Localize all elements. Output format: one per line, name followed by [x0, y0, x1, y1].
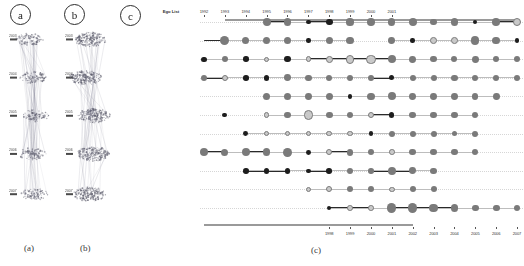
row-6-node-1997[interactable] [306, 131, 312, 137]
row-2-node-1993[interactable] [222, 56, 228, 62]
row-5-node-2004[interactable] [451, 112, 457, 118]
row-0-node-1996[interactable] [284, 18, 291, 25]
row-7-node-1998[interactable] [326, 149, 332, 155]
row-7-node-2005[interactable] [472, 149, 478, 155]
row-3-node-2007[interactable] [514, 75, 520, 81]
row-1-node-2005[interactable] [471, 36, 479, 44]
row-8-node-1996[interactable] [285, 168, 291, 174]
row-10-node-2006[interactable] [493, 205, 500, 212]
row-4-node-1997[interactable] [305, 93, 312, 100]
row-0-node-2003[interactable] [430, 19, 437, 26]
row-6-node-1999[interactable] [347, 131, 353, 137]
row-6-node-1994[interactable] [243, 131, 248, 136]
row-0-node-1999[interactable] [346, 18, 353, 25]
row-8-node-1997[interactable] [306, 169, 310, 173]
row-7-node-1999[interactable] [347, 149, 354, 156]
row-7-node-1994[interactable] [242, 148, 250, 156]
row-4-node-1995[interactable] [263, 93, 270, 100]
row-3-node-1999[interactable] [347, 75, 353, 81]
row-4-node-2001[interactable] [388, 92, 396, 100]
row-10-node-2007[interactable] [514, 205, 521, 212]
row-6-node-2004[interactable] [452, 131, 458, 137]
row-3-node-2001[interactable] [389, 75, 394, 80]
row-0-node-2000[interactable] [367, 18, 375, 26]
row-2-node-2007[interactable] [514, 56, 520, 62]
row-7-node-1995[interactable] [263, 148, 271, 156]
row-8-node-2002[interactable] [409, 167, 416, 174]
row-3-node-1992[interactable] [201, 75, 207, 81]
row-7-node-2004[interactable] [451, 149, 457, 155]
row-4-node-2004[interactable] [451, 93, 458, 100]
row-2-node-2005[interactable] [472, 56, 479, 63]
row-1-node-2004[interactable] [451, 37, 458, 44]
row-8-node-2000[interactable] [368, 168, 374, 174]
row-7-node-1996[interactable] [283, 148, 292, 157]
row-3-node-2004[interactable] [451, 75, 457, 81]
row-6-node-1996[interactable] [285, 131, 291, 137]
row-6-node-2005[interactable] [472, 131, 478, 137]
row-1-node-2006[interactable] [492, 37, 500, 45]
row-1-node-1996[interactable] [284, 37, 291, 44]
row-9-node-1998[interactable] [326, 186, 332, 192]
row-7-node-2002[interactable] [409, 149, 415, 155]
row-0-node-2006[interactable] [492, 18, 500, 26]
row-8-node-1994[interactable] [243, 168, 249, 174]
row-3-node-1996[interactable] [284, 74, 291, 81]
row-5-node-2003[interactable] [430, 112, 436, 118]
row-3-node-1998[interactable] [326, 75, 332, 81]
row-2-node-2000[interactable] [366, 55, 375, 64]
row-10-node-2003[interactable] [429, 204, 438, 213]
row-0-node-1998[interactable] [326, 19, 333, 26]
row-1-node-2002[interactable] [410, 38, 414, 42]
row-9-node-2002[interactable] [410, 186, 416, 192]
row-1-node-2001[interactable] [388, 37, 395, 44]
row-5-node-1996[interactable] [284, 112, 290, 118]
row-5-node-1999[interactable] [347, 112, 353, 118]
row-6-node-2001[interactable] [389, 131, 395, 137]
row-0-node-2005[interactable] [473, 20, 477, 24]
row-10-node-1998[interactable] [327, 206, 331, 210]
row-6-node-2002[interactable] [410, 131, 416, 137]
row-0-node-2002[interactable] [409, 18, 417, 26]
row-7-node-1992[interactable] [200, 148, 208, 156]
row-4-node-2003[interactable] [430, 93, 437, 100]
row-5-node-1997[interactable] [304, 110, 314, 120]
row-9-node-1999[interactable] [347, 186, 353, 192]
row-4-node-2002[interactable] [409, 93, 416, 100]
row-6-node-1995[interactable] [264, 131, 270, 137]
row-6-node-2003[interactable] [431, 131, 437, 137]
row-3-node-1995[interactable] [264, 75, 270, 81]
row-3-node-2005[interactable] [472, 75, 478, 81]
row-7-node-2001[interactable] [389, 149, 395, 155]
row-10-node-2004[interactable] [451, 204, 458, 211]
row-3-node-1997[interactable] [305, 75, 311, 81]
row-2-node-1994[interactable] [243, 56, 249, 62]
row-3-node-2000[interactable] [368, 75, 374, 81]
row-4-node-1999[interactable] [348, 94, 352, 98]
row-2-node-2003[interactable] [430, 56, 436, 62]
row-7-node-1993[interactable] [221, 149, 228, 156]
row-10-node-2000[interactable] [368, 205, 374, 211]
row-9-node-2003[interactable] [431, 186, 437, 192]
row-2-node-1997[interactable] [306, 56, 312, 62]
row-2-node-1996[interactable] [284, 56, 290, 62]
row-8-node-2001[interactable] [388, 167, 396, 175]
row-2-node-2001[interactable] [388, 55, 396, 63]
row-2-node-2004[interactable] [451, 56, 457, 62]
row-1-node-2007[interactable] [515, 38, 520, 43]
row-2-node-1992[interactable] [201, 57, 206, 62]
row-5-node-2000[interactable] [368, 112, 374, 118]
row-1-node-1997[interactable] [306, 38, 310, 42]
row-5-node-2002[interactable] [409, 112, 415, 118]
row-2-node-1999[interactable] [346, 55, 355, 64]
row-10-node-2002[interactable] [408, 203, 417, 212]
row-6-node-1998[interactable] [326, 131, 332, 137]
row-9-node-2000[interactable] [368, 186, 374, 192]
row-8-node-1998[interactable] [326, 168, 332, 174]
row-2-node-2006[interactable] [493, 56, 499, 62]
row-3-node-2006[interactable] [493, 75, 499, 81]
row-8-node-2003[interactable] [430, 168, 436, 174]
row-10-node-2005[interactable] [472, 205, 479, 212]
row-5-node-1998[interactable] [326, 112, 333, 119]
row-9-node-1997[interactable] [306, 187, 312, 193]
